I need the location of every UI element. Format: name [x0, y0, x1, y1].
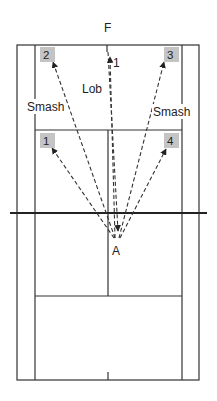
drop-left-path — [52, 148, 114, 238]
smash-left-label: Smash — [27, 100, 64, 114]
zone-label: 1 — [43, 135, 49, 147]
badminton-court-diagram: 2 3 1 4 F 1 Lob Smash Smash A — [0, 0, 217, 401]
top-label-f: F — [104, 21, 111, 35]
lob-path — [110, 57, 115, 238]
lob-label: Lob — [82, 82, 102, 96]
incoming-shuttle-path — [108, 52, 118, 231]
drop-right-path — [120, 149, 166, 238]
incoming-target-label: 1 — [113, 56, 120, 70]
target-zone-3: 3 — [164, 47, 179, 62]
smash-right-path — [119, 62, 164, 238]
target-zone-1: 1 — [40, 133, 55, 148]
zone-label: 3 — [167, 49, 173, 61]
zone-label: 4 — [167, 135, 174, 147]
zone-label: 2 — [43, 49, 49, 61]
target-zone-4: 4 — [164, 133, 179, 148]
shot-paths — [52, 52, 166, 238]
smash-right-label: Smash — [153, 105, 190, 119]
court — [10, 45, 207, 380]
player-label-a: A — [112, 244, 120, 258]
target-zone-2: 2 — [40, 47, 55, 62]
